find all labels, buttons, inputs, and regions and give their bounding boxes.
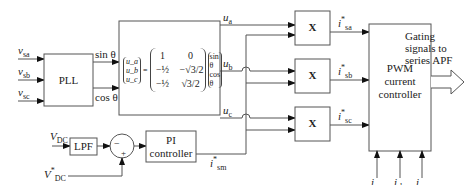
ub-label: ub <box>223 58 233 69</box>
sin-label: sin θ <box>95 49 116 60</box>
vsb-label: vsb <box>18 66 30 77</box>
isb-label: isb <box>394 177 404 185</box>
lpf-block: LPF <box>70 140 97 153</box>
vsc-label: vsc <box>18 87 30 98</box>
isc-label: isc <box>416 177 426 185</box>
cos-label: cos θ <box>95 92 118 103</box>
pi-controller-block: PIcontroller <box>146 134 196 160</box>
isc-ref-label: i*sc <box>338 111 352 122</box>
ism-ref-label: i*sm <box>210 158 226 169</box>
isb-ref-label: i*sb <box>338 66 352 77</box>
vdc-label: VDC <box>50 131 68 142</box>
vdc-ref-label: V*DC <box>44 169 66 180</box>
isa-ref-label: i*sa <box>338 18 352 29</box>
summer-minus: − <box>114 138 120 149</box>
pwm-controller-block: PWMcurrentcontroller <box>369 62 431 101</box>
uc-label: uc <box>223 105 232 116</box>
multiplier-b: X <box>295 69 330 82</box>
ua-label: ua <box>223 12 232 23</box>
gating-signals-label: Gatingsignals toseries APF <box>405 30 452 66</box>
matrix-equation: u_au_bu_c = 10 −½−√3/2 −½√3/2 sin θcos θ <box>123 48 219 92</box>
vsa-label: vsa <box>18 45 30 56</box>
multiplier-a: X <box>295 21 330 34</box>
isa-label: isa <box>371 177 381 185</box>
pll-block: PLL <box>44 74 93 87</box>
multiplier-c: X <box>295 117 330 130</box>
summer-plus: + <box>121 148 126 159</box>
